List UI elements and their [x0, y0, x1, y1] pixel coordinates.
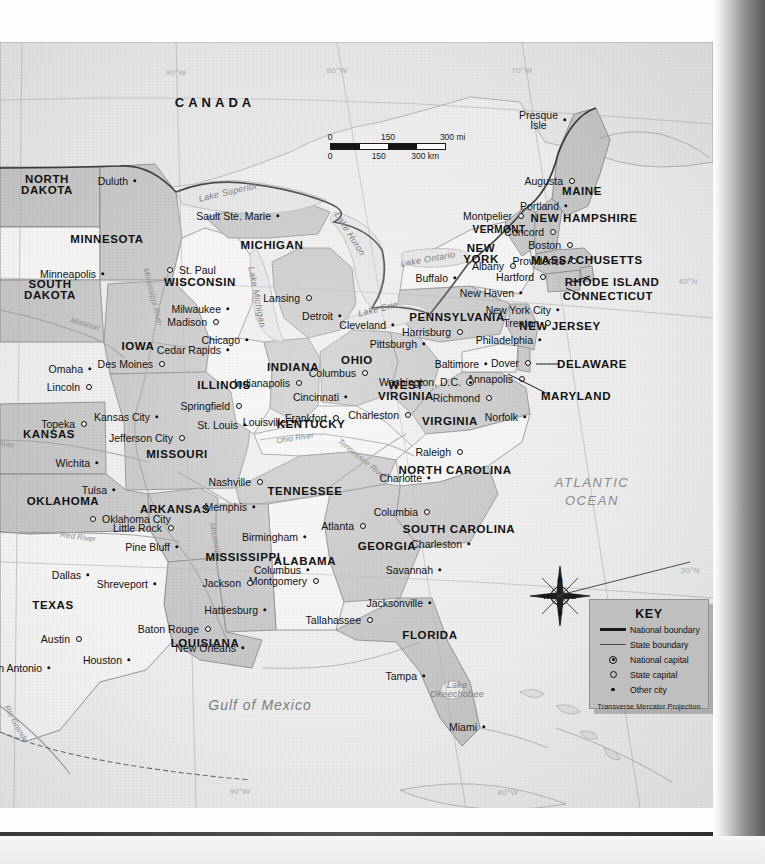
city-marker-madison[interactable] — [213, 319, 219, 325]
city-marker-springfield[interactable] — [236, 403, 242, 409]
city-label-indianapolis: Indianapolis — [234, 377, 290, 389]
city-label-providence: Providence — [512, 255, 565, 267]
city-marker-harrisburg[interactable] — [457, 329, 463, 335]
graticule-label-80-w-1: 80°W — [327, 66, 348, 75]
city-label-memphis: Memphis — [204, 501, 247, 513]
city-marker-columbus[interactable] — [362, 370, 368, 376]
city-marker-charleston[interactable] — [405, 412, 411, 418]
city-marker-concord[interactable] — [550, 229, 556, 235]
city-marker-nashville[interactable] — [257, 479, 263, 485]
city-label-hartford: Hartford — [496, 271, 534, 283]
state-label-texas: TEXAS — [32, 599, 73, 611]
country-label-canada: CANADA — [175, 95, 255, 110]
state-label-delaware: DELAWARE — [557, 358, 627, 370]
city-marker-columbia[interactable] — [424, 509, 430, 515]
city-marker-austin[interactable] — [76, 636, 82, 642]
city-marker-trenton[interactable] — [545, 320, 551, 326]
city-label-savannah: Savannah — [386, 564, 433, 576]
city-label-norfolk: Norfolk — [485, 411, 518, 423]
city-marker-jefferson-city[interactable] — [179, 435, 185, 441]
state-label-florida: FLORIDA — [402, 629, 457, 641]
city-marker-washington-d-c[interactable] — [466, 378, 474, 386]
city-label-hattiesburg: Hattiesburg — [204, 604, 258, 616]
city-label-topeka: Topeka — [41, 418, 75, 430]
state-label-iowa: IOWA — [121, 340, 154, 352]
city-label-tampa: Tampa — [385, 670, 417, 682]
city-marker-annapolis[interactable] — [519, 376, 525, 382]
state-label-oklahoma: OKLAHOMA — [27, 495, 100, 507]
city-label-montpelier: Montpelier — [463, 210, 512, 222]
city-label-st-paul: St. Paul — [179, 264, 216, 276]
city-marker-topeka[interactable] — [81, 421, 87, 427]
city-label-houston: Houston — [83, 654, 122, 666]
city-marker-montgomery[interactable] — [313, 578, 319, 584]
national-capital-icon — [596, 656, 630, 664]
city-marker-boston[interactable] — [567, 242, 573, 248]
city-label-wichita: Wichita — [56, 457, 90, 469]
city-label-richmond: Richmond — [433, 392, 480, 404]
city-marker-augusta[interactable] — [569, 178, 575, 184]
city-label-shreveport: Shreveport — [97, 578, 148, 590]
city-label-charlotte: Charlotte — [379, 472, 422, 484]
city-label-new-orleans: New Orleans — [175, 642, 236, 654]
scale-bar-graphic — [330, 143, 446, 150]
state-label-rhode-island: RHODE ISLAND — [565, 276, 660, 288]
page-edge-shadow — [713, 0, 765, 864]
city-label-atlanta: Atlanta — [321, 520, 354, 532]
city-marker-frankfort[interactable] — [333, 415, 339, 421]
city-label-montgomery: Montgomery — [249, 575, 307, 587]
state-label-maine: MAINE — [562, 185, 602, 197]
city-marker-hartford[interactable] — [540, 274, 546, 280]
city-marker-st-paul[interactable] — [167, 267, 173, 273]
city-marker-lincoln[interactable] — [86, 384, 92, 390]
city-marker-lansing[interactable] — [306, 295, 312, 301]
city-marker-jackson[interactable] — [247, 580, 253, 586]
city-marker-montpelier[interactable] — [518, 213, 524, 219]
key-item-state-capital: State capital — [590, 668, 708, 681]
city-marker-raleigh[interactable] — [457, 449, 463, 455]
city-marker-richmond[interactable] — [486, 395, 492, 401]
page-bottom-margin — [0, 836, 765, 864]
state-label-tennessee: TENNESSEE — [267, 485, 342, 497]
city-label-birmingham: Birmingham — [242, 531, 298, 543]
city-marker-baton-rouge[interactable] — [205, 626, 211, 632]
city-label-dover: Dover — [491, 357, 519, 369]
state-label-connecticut: CONNECTICUT — [563, 290, 653, 302]
compass-w: W — [542, 592, 550, 601]
city-label-tallahassee: Tallahassee — [306, 614, 361, 626]
state-label-missouri: MISSOURI — [146, 448, 208, 460]
city-label-duluth: Duluth — [98, 175, 128, 187]
city-marker-oklahoma-city[interactable] — [90, 516, 96, 522]
city-label-new-haven: New Haven — [460, 287, 514, 299]
city-label-jefferson-city: Jefferson City — [109, 432, 173, 444]
scale-km-ticks: 0 150 300 km — [330, 151, 446, 162]
city-marker-providence[interactable] — [571, 258, 577, 264]
state-label-georgia: GEORGIA — [358, 540, 417, 552]
gulf-of-mexico-label: Gulf of Mexico — [208, 697, 311, 713]
state-label-ohio: OHIO — [341, 354, 373, 366]
city-marker-indianapolis[interactable] — [296, 380, 302, 386]
city-label-buffalo: Buffalo — [416, 272, 449, 284]
city-marker-dover[interactable] — [525, 360, 531, 366]
compass-e: E — [571, 592, 576, 601]
graticule-label-90-w-3: 90°W — [230, 787, 251, 796]
state-label-michigan: MICHIGAN — [241, 239, 304, 251]
key-item-national-boundary: National boundary — [590, 623, 708, 636]
city-marker-des-moines[interactable] — [159, 361, 165, 367]
city-label-cincinnati: Cincinnati — [293, 391, 339, 403]
city-label-baltimore: Baltimore — [435, 358, 479, 370]
compass-rose: N E S W — [528, 564, 592, 628]
city-marker-atlanta[interactable] — [360, 523, 366, 529]
state-capital-icon — [596, 671, 630, 678]
city-label-columbia: Columbia — [374, 506, 418, 518]
city-label-washington-d-c: Washington, D.C. — [379, 376, 461, 388]
city-marker-albany[interactable] — [510, 263, 516, 269]
city-label-des-moines: Des Moines — [98, 358, 153, 370]
city-marker-tallahassee[interactable] — [367, 617, 373, 623]
city-label-jackson: Jackson — [202, 577, 241, 589]
key-item-state-boundary: State boundary — [590, 638, 708, 651]
city-label-new-york-city: New York City — [486, 304, 551, 316]
city-marker-little-rock[interactable] — [168, 525, 174, 531]
state-label-wisconsin: WISCONSIN — [164, 276, 236, 288]
city-label-trenton: Trenton — [503, 317, 539, 329]
